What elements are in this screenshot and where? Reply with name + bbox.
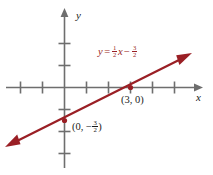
y-intercept-suffix: ) <box>98 121 102 132</box>
axes-group <box>6 16 196 168</box>
point-label-x-intercept: (3, 0) <box>121 95 144 106</box>
equation-lhs: y <box>98 46 103 57</box>
coordinate-plane <box>0 0 213 175</box>
equation-variable: x <box>118 46 123 57</box>
y-axis-label: y <box>76 10 81 21</box>
slope-denominator: 2 <box>112 52 117 59</box>
point-y-intercept <box>62 118 67 123</box>
y-intercept-denominator: 2 <box>92 127 97 134</box>
line-arrow-lower-left-icon <box>5 135 21 147</box>
x-axis-label: x <box>196 92 201 103</box>
y-axis-arrow-icon <box>61 8 69 17</box>
intercept-fraction: 32 <box>132 45 137 59</box>
point-x-intercept <box>128 85 133 90</box>
equation-equals: = <box>103 46 112 57</box>
graph-figure: y x y=12x−32 (3, 0) (0, −32) <box>0 0 213 175</box>
intercept-denominator: 2 <box>132 52 137 59</box>
equation-minus: − <box>123 46 132 57</box>
equation-annotation: y=12x−32 <box>98 45 138 59</box>
line-arrow-upper-right-icon <box>176 53 192 65</box>
y-intercept-minus: − <box>86 121 92 132</box>
slope-fraction: 12 <box>112 45 117 59</box>
point-label-y-intercept: (0, −32) <box>72 120 102 135</box>
y-intercept-fraction: 32 <box>92 120 97 135</box>
y-intercept-prefix: (0, <box>72 121 86 132</box>
